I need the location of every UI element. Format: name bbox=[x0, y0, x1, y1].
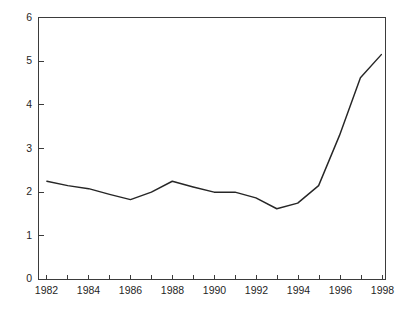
chart-canvas: 0 1 2 3 4 5 6 198 bbox=[0, 0, 397, 314]
x-axis-tick-labels: 1982 1984 1986 1988 1990 1992 1994 1996 … bbox=[35, 284, 395, 296]
y-axis-label-2: 2 bbox=[26, 185, 32, 197]
x-axis-label-1986: 1986 bbox=[119, 284, 143, 296]
y-axis-label-6: 6 bbox=[26, 11, 32, 23]
x-axis-label-1992: 1992 bbox=[245, 284, 269, 296]
x-axis-label-1996: 1996 bbox=[329, 284, 353, 296]
line-chart-figure: 0 1 2 3 4 5 6 198 bbox=[0, 0, 397, 314]
x-axis-label-1982: 1982 bbox=[35, 284, 59, 296]
y-axis-label-0: 0 bbox=[26, 272, 32, 284]
y-axis-ticks bbox=[39, 18, 44, 280]
y-axis-label-3: 3 bbox=[26, 142, 32, 154]
x-axis-label-1990: 1990 bbox=[203, 284, 227, 296]
y-axis-tick-labels: 0 1 2 3 4 5 6 bbox=[26, 11, 32, 285]
y-axis-label-5: 5 bbox=[26, 54, 32, 66]
x-axis-label-1984: 1984 bbox=[77, 284, 101, 296]
x-axis-label-1994: 1994 bbox=[287, 284, 311, 296]
y-axis-label-1: 1 bbox=[26, 229, 32, 241]
y-axis-label-4: 4 bbox=[26, 98, 32, 110]
x-axis-ticks bbox=[47, 275, 383, 280]
x-axis-label-1988: 1988 bbox=[161, 284, 185, 296]
data-line-series-1 bbox=[47, 55, 381, 209]
x-axis-label-1998: 1998 bbox=[371, 284, 395, 296]
